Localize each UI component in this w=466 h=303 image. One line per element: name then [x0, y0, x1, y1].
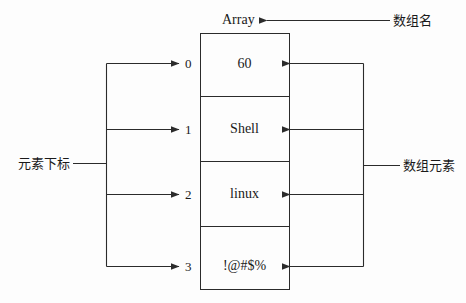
annotation-array-elements: 数组元素: [403, 159, 455, 172]
array-title-label: Array: [222, 13, 255, 27]
array-cell-value-2: linux: [200, 187, 289, 201]
array-index-label-1: 1: [185, 123, 192, 136]
array-index-label-3: 3: [185, 260, 192, 273]
array-index-label-2: 2: [185, 188, 192, 201]
annotation-element-index: 元素下标: [18, 157, 70, 170]
array-cell-value-0: 60: [200, 57, 289, 71]
annotation-array-name: 数组名: [393, 14, 432, 27]
array-cell-value-3: !@#$%: [200, 259, 289, 273]
diagram-canvas: Array 60 Shell linux !@#$% 0 1 2 3 数组名 元…: [0, 0, 466, 303]
array-index-label-0: 0: [185, 57, 192, 70]
array-cell-value-1: Shell: [200, 122, 289, 136]
